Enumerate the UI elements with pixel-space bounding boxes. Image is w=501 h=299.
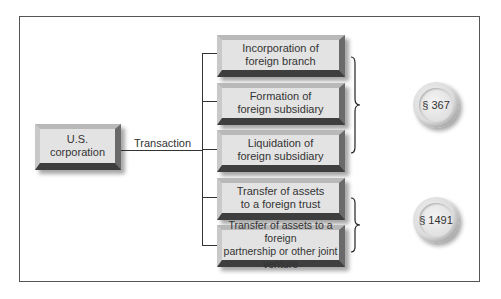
branch-line-2 xyxy=(202,101,218,102)
transaction-label-3: Liquidation of foreign subsidiary xyxy=(237,137,323,163)
us-corporation-box: U.S. corporation xyxy=(35,124,121,170)
transaction-label-2: Formation of foreign subsidiary xyxy=(237,90,323,116)
brace-367-icon xyxy=(348,55,362,155)
transaction-label: Transaction xyxy=(134,137,191,149)
section-1491-label: § 1491 xyxy=(419,214,453,226)
transaction-box-transfer-trust: Transfer of assets to a foreign trust xyxy=(217,178,345,220)
transaction-box-incorporation-branch: Incorporation of foreign branch xyxy=(217,35,345,77)
transaction-label-4: Transfer of assets to a foreign trust xyxy=(237,185,325,211)
us-corporation-label: U.S. corporation xyxy=(50,133,105,159)
transaction-box-formation-subsidiary: Formation of foreign subsidiary xyxy=(217,83,345,125)
transaction-connector-line xyxy=(121,150,202,151)
section-367-badge: § 367 xyxy=(413,82,459,128)
transaction-label-5: Transfer of assets to a foreign partners… xyxy=(222,219,339,271)
branch-line-5 xyxy=(202,245,218,246)
transaction-label-1: Incorporation of foreign branch xyxy=(242,42,318,68)
section-367-label: § 367 xyxy=(422,99,450,111)
branch-line-1 xyxy=(202,53,218,54)
branch-line-3 xyxy=(202,149,218,150)
transaction-box-liquidation-subsidiary: Liquidation of foreign subsidiary xyxy=(217,130,345,172)
transaction-box-transfer-partnership: Transfer of assets to a foreign partners… xyxy=(217,225,345,267)
branch-line-4 xyxy=(202,197,218,198)
brace-1491-icon xyxy=(348,196,362,254)
section-1491-badge: § 1491 xyxy=(413,197,459,243)
